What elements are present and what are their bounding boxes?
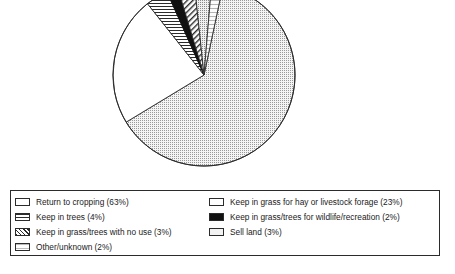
- pie-chart-svg: [0, 0, 455, 182]
- pie-chart-area: [0, 0, 455, 182]
- pie-chart-figure: Return to cropping (63%)Keep in trees (4…: [0, 0, 455, 274]
- legend-swatch-dots-icon: [209, 228, 224, 236]
- legend-item-label: Keep in grass/trees with no use (3%): [36, 227, 172, 237]
- legend-swatch-empty-icon: [15, 198, 30, 206]
- legend-column-left: Return to cropping (63%)Keep in trees (4…: [15, 194, 211, 254]
- legend-item: Keep in trees (4%): [15, 209, 211, 224]
- legend-item: Keep in grass/trees for wildlife/recreat…: [209, 209, 439, 224]
- legend-swatch-hlines-icon: [15, 213, 30, 221]
- legend-item-label: Keep in trees (4%): [36, 212, 105, 222]
- legend-item-label: Sell land (3%): [230, 227, 282, 237]
- legend-item: Sell land (3%): [209, 224, 439, 239]
- legend-swatch-empty-icon: [209, 198, 224, 206]
- legend-swatch-solid-icon: [209, 213, 224, 221]
- legend-column-right: Keep in grass for hay or livestock forag…: [209, 194, 439, 239]
- legend-swatch-diag-icon: [15, 228, 30, 236]
- legend-item-label: Return to cropping (63%): [36, 197, 129, 207]
- legend-item: Other/unknown (2%): [15, 239, 211, 254]
- legend-item-label: Keep in grass for hay or livestock forag…: [230, 197, 402, 207]
- legend-swatch-light-icon: [15, 243, 30, 251]
- legend-item: Return to cropping (63%): [15, 194, 211, 209]
- legend-item: Keep in grass for hay or livestock forag…: [209, 194, 439, 209]
- pie-slices-group: [113, 0, 295, 166]
- legend-item-label: Keep in grass/trees for wildlife/recreat…: [230, 212, 400, 222]
- legend-item-label: Other/unknown (2%): [36, 242, 112, 252]
- chart-legend: Return to cropping (63%)Keep in trees (4…: [10, 190, 440, 256]
- legend-item: Keep in grass/trees with no use (3%): [15, 224, 211, 239]
